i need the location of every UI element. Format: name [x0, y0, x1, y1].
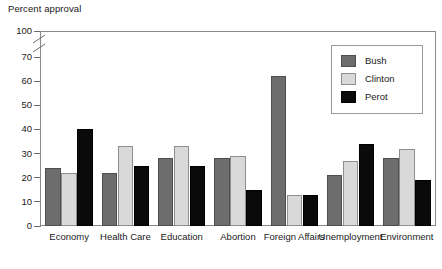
bar-bush: [45, 168, 61, 226]
y-label-50: 50: [6, 100, 32, 110]
legend-swatch-bush: [341, 55, 356, 67]
bar-chart: Percent approval 010203040506070100 Econ…: [0, 0, 442, 269]
y-label-40: 40: [6, 124, 32, 134]
legend-label: Clinton: [365, 74, 395, 84]
legend-item-bush: Bush: [332, 52, 422, 70]
bar-clinton: [287, 195, 303, 226]
bar-group: [154, 32, 210, 226]
y-label-10: 10: [6, 197, 32, 207]
legend-item-perot: Perot: [332, 88, 422, 106]
y-label-100: 100: [6, 26, 32, 36]
x-label: Environment: [373, 231, 441, 243]
bar-clinton: [230, 156, 246, 226]
bar-perot: [190, 166, 206, 226]
bar-perot: [303, 195, 319, 226]
bar-group: [210, 32, 266, 226]
legend-swatch-perot: [341, 91, 356, 103]
y-axis-spine: [40, 31, 41, 35]
bar-perot: [77, 129, 93, 226]
legend-label: Perot: [365, 92, 388, 102]
y-label-30: 30: [6, 149, 32, 159]
bar-perot: [359, 144, 375, 226]
bar-clinton: [174, 146, 190, 226]
y-label-60: 60: [6, 76, 32, 86]
bar-group: [97, 32, 153, 226]
y-axis-labels: 010203040506070100: [0, 0, 32, 269]
bar-perot: [415, 180, 431, 226]
y-label-0: 0: [6, 221, 32, 231]
bar-group: [266, 32, 322, 226]
x-axis-labels: EconomyHealth CareEducationAbortionForei…: [41, 231, 435, 269]
bar-clinton: [61, 173, 77, 226]
legend-swatch-clinton: [341, 73, 356, 85]
legend-label: Bush: [365, 56, 387, 66]
bar-group: [41, 32, 97, 226]
legend-item-clinton: Clinton: [332, 70, 422, 88]
legend: BushClintonPerot: [331, 45, 423, 114]
bar-perot: [134, 166, 150, 226]
bar-bush: [271, 76, 287, 226]
y-label-70: 70: [6, 52, 32, 62]
bar-clinton: [343, 161, 359, 226]
y-axis-spine: [40, 57, 41, 227]
bar-bush: [214, 158, 230, 226]
bar-perot: [246, 190, 262, 226]
bar-bush: [102, 173, 118, 226]
bar-clinton: [118, 146, 134, 226]
bar-bush: [158, 158, 174, 226]
y-label-20: 20: [6, 173, 32, 183]
bar-bush: [383, 158, 399, 226]
bar-clinton: [399, 149, 415, 226]
bar-bush: [327, 175, 343, 226]
